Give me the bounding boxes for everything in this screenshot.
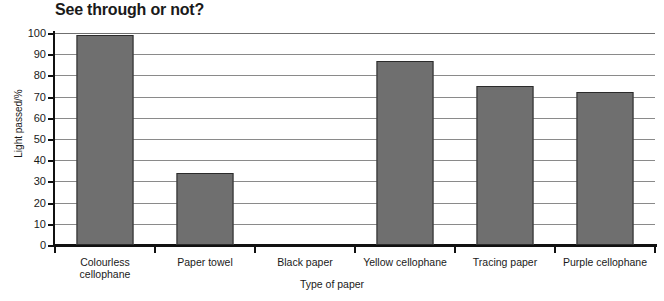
x-axis-category-label: Black paper [255, 256, 355, 268]
bar[interactable] [477, 86, 534, 245]
y-axis-tick-label: 90 [4, 49, 46, 59]
bar-slot [155, 33, 255, 245]
x-axis-category-label-line: Paper towel [155, 256, 255, 268]
bar[interactable] [77, 35, 134, 245]
x-axis-category-label-line: Colourless [55, 256, 155, 268]
bar[interactable] [377, 61, 434, 245]
bar-slot [455, 33, 555, 245]
bar-slot [555, 33, 655, 245]
x-axis-category-label: Tracing paper [455, 256, 555, 268]
y-axis-tick-label: 20 [4, 198, 46, 208]
y-axis-tick-label: 0 [4, 240, 46, 250]
chart-title: See through or not? [55, 1, 204, 19]
x-axis-ticks [55, 247, 655, 254]
bar-slot [255, 33, 355, 245]
x-axis-tick [254, 247, 256, 253]
y-axis-tick-label: 60 [4, 113, 46, 123]
bar-slot [55, 33, 155, 245]
y-axis-tick-label: 50 [4, 134, 46, 144]
y-axis-tick-labels: 1009080706050403020100 [0, 0, 46, 301]
y-axis-tick-label: 80 [4, 70, 46, 80]
bar-series [55, 33, 655, 245]
x-axis-category-label: Yellow cellophane [355, 256, 455, 268]
x-axis-category-label-line: Yellow cellophane [355, 256, 455, 268]
x-axis-tick [654, 247, 656, 253]
x-axis-tick [154, 247, 156, 253]
x-axis-category-label-line: Purple cellophane [555, 256, 655, 268]
y-axis-tick-label: 70 [4, 92, 46, 102]
bar[interactable] [577, 92, 634, 245]
y-axis-tick-label: 40 [4, 155, 46, 165]
x-axis-category-label: Purple cellophane [555, 256, 655, 268]
x-axis-tick [454, 247, 456, 253]
x-axis-category-label: Colourlesscellophane [55, 256, 155, 280]
x-axis-tick [554, 247, 556, 253]
bar-chart: See through or not? Light passed/% 10090… [0, 0, 664, 301]
y-axis-tick-label: 30 [4, 176, 46, 186]
y-axis-tick-label: 10 [4, 219, 46, 229]
y-axis-tick-label: 100 [4, 28, 46, 38]
x-axis-category-label-line: Black paper [255, 256, 355, 268]
bar[interactable] [177, 173, 234, 245]
bar-slot [355, 33, 455, 245]
x-axis-tick [54, 247, 56, 253]
x-axis-category-label: Paper towel [155, 256, 255, 268]
x-axis-tick [354, 247, 356, 253]
x-axis-category-label-line: Tracing paper [455, 256, 555, 268]
x-axis-title: Type of paper [0, 278, 664, 290]
